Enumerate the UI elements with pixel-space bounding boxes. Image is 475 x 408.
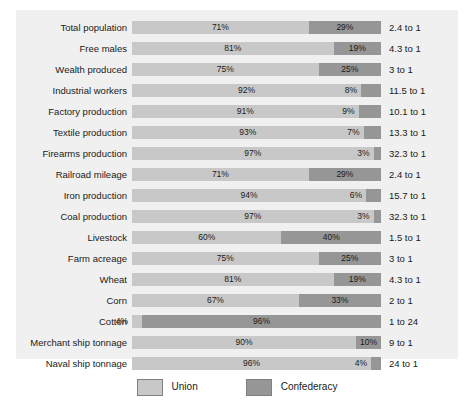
stacked-bar: 75%25% [132, 63, 381, 76]
ratio-annotation: 1.5 to 1 [381, 233, 421, 243]
bar-value-confederacy: 6% [350, 191, 362, 200]
legend-item: Union [137, 379, 198, 396]
bar-value-union: 81% [224, 275, 241, 284]
legend-label: Confederacy [281, 382, 338, 392]
stacked-bar: 71%29% [132, 168, 381, 181]
bar-segment-union: 60% [132, 231, 281, 244]
bar-value-confederacy: 3% [357, 212, 369, 221]
bar-segment-confederacy: 9% [359, 105, 381, 118]
category-label: Industrial workers [16, 86, 132, 96]
bar-segment-confederacy: 7% [364, 126, 381, 139]
category-label: Livestock [16, 233, 132, 243]
chart-row: Naval ship tonnage96%4%24 to 1 [16, 353, 458, 374]
ratio-annotation: 24 to 1 [381, 359, 418, 369]
bar-value-union: 60% [198, 233, 215, 242]
bar-segment-union: 67% [132, 294, 299, 307]
ratio-annotation: 9 to 1 [381, 338, 413, 348]
chart-row: Merchant ship tonnage90%10%9 to 1 [16, 332, 458, 353]
category-label: Railroad mileage [16, 170, 132, 180]
bar-value-union: 96% [243, 359, 260, 368]
bar-value-confederacy: 19% [349, 275, 366, 284]
bar-segment-union: 81% [132, 42, 334, 55]
ratio-annotation: 32.3 to 1 [381, 149, 426, 159]
bar-segment-confederacy: 25% [319, 252, 381, 265]
bar-segment-union: 97% [132, 147, 374, 160]
stacked-bar: 91%9% [132, 105, 381, 118]
stacked-bar: 81%19% [132, 42, 381, 55]
stacked-bar: 60%40% [132, 231, 381, 244]
category-label: Coal production [16, 212, 132, 222]
category-label: Iron production [16, 191, 132, 201]
bar-value-confederacy: 25% [341, 254, 358, 263]
bar-segment-union: 75% [132, 252, 319, 265]
chart-row: Textile production93%7%13.3 to 1 [16, 122, 458, 143]
stacked-bar: 97%3% [132, 147, 381, 160]
ratio-annotation: 3 to 1 [381, 65, 413, 75]
bar-value-union: 94% [241, 191, 258, 200]
bar-value-union: 90% [236, 338, 253, 347]
ratio-annotation: 4.3 to 1 [381, 44, 421, 54]
bar-value-confederacy: 96% [253, 317, 270, 326]
chart-row: Cotton4%96%1 to 24 [16, 311, 458, 332]
bar-segment-confederacy: 25% [319, 63, 381, 76]
bar-rows: Total population71%29%2.4 to 1Free males… [16, 10, 458, 359]
chart-row: Corn67%33%2 to 1 [16, 290, 458, 311]
ratio-annotation: 10.1 to 1 [381, 107, 426, 117]
bar-segment-union: 71% [132, 21, 309, 34]
chart-row: Total population71%29%2.4 to 1 [16, 17, 458, 38]
ratio-annotation: 2.4 to 1 [381, 23, 421, 33]
chart-legend: UnionConfederacy [16, 372, 458, 402]
bar-segment-union: 97% [132, 210, 374, 223]
bar-value-union: 91% [237, 107, 254, 116]
bar-segment-confederacy: 4% [371, 357, 381, 370]
category-label: Merchant ship tonnage [16, 338, 132, 348]
ratio-annotation: 2.4 to 1 [381, 170, 421, 180]
bar-segment-confederacy: 29% [309, 21, 381, 34]
chart-row: Livestock60%40%1.5 to 1 [16, 227, 458, 248]
bar-segment-confederacy: 8% [361, 84, 381, 97]
stacked-bar: 92%8% [132, 84, 381, 97]
ratio-annotation: 2 to 1 [381, 296, 413, 306]
chart-figure: Total population71%29%2.4 to 1Free males… [0, 0, 475, 408]
bar-value-confederacy: 19% [349, 44, 366, 53]
stacked-bar: 67%33% [132, 294, 381, 307]
bar-segment-union: 75% [132, 63, 319, 76]
bar-value-union: 97% [244, 212, 261, 221]
legend-label: Union [172, 382, 198, 392]
ratio-annotation: 15.7 to 1 [381, 191, 426, 201]
category-label: Cotton [16, 317, 132, 327]
bar-segment-union: 96% [132, 357, 371, 370]
bar-value-confederacy: 4% [355, 359, 367, 368]
ratio-annotation: 4.3 to 1 [381, 275, 421, 285]
category-label: Firearms production [16, 149, 132, 159]
bar-value-union: 71% [212, 170, 229, 179]
stacked-bar: 4%96% [132, 315, 381, 328]
bar-segment-confederacy: 6% [366, 189, 381, 202]
plot-panel: Total population71%29%2.4 to 1Free males… [16, 10, 458, 359]
bar-segment-union: 92% [132, 84, 361, 97]
chart-row: Factory production91%9%10.1 to 1 [16, 101, 458, 122]
category-label: Wealth produced [16, 65, 132, 75]
bar-value-confederacy: 40% [323, 233, 340, 242]
bar-segment-confederacy: 29% [309, 168, 381, 181]
stacked-bar: 96%4% [132, 357, 381, 370]
bar-value-confederacy: 10% [360, 338, 377, 347]
bar-value-union: 75% [217, 254, 234, 263]
ratio-annotation: 3 to 1 [381, 254, 413, 264]
bar-segment-confederacy: 96% [142, 315, 381, 328]
chart-row: Coal production97%3%32.3 to 1 [16, 206, 458, 227]
stacked-bar: 75%25% [132, 252, 381, 265]
bar-value-confederacy: 8% [345, 86, 357, 95]
bar-value-union: 81% [224, 44, 241, 53]
bar-value-union: 75% [217, 65, 234, 74]
stacked-bar: 71%29% [132, 21, 381, 34]
bar-value-union: 67% [207, 296, 224, 305]
chart-row: Wealth produced75%25%3 to 1 [16, 59, 458, 80]
chart-row: Industrial workers92%8%11.5 to 1 [16, 80, 458, 101]
category-label: Total population [16, 23, 132, 33]
category-label: Naval ship tonnage [16, 359, 132, 369]
bar-segment-union: 93% [132, 126, 364, 139]
chart-row: Firearms production97%3%32.3 to 1 [16, 143, 458, 164]
ratio-annotation: 32.3 to 1 [381, 212, 426, 222]
bar-value-confederacy: 25% [341, 65, 358, 74]
